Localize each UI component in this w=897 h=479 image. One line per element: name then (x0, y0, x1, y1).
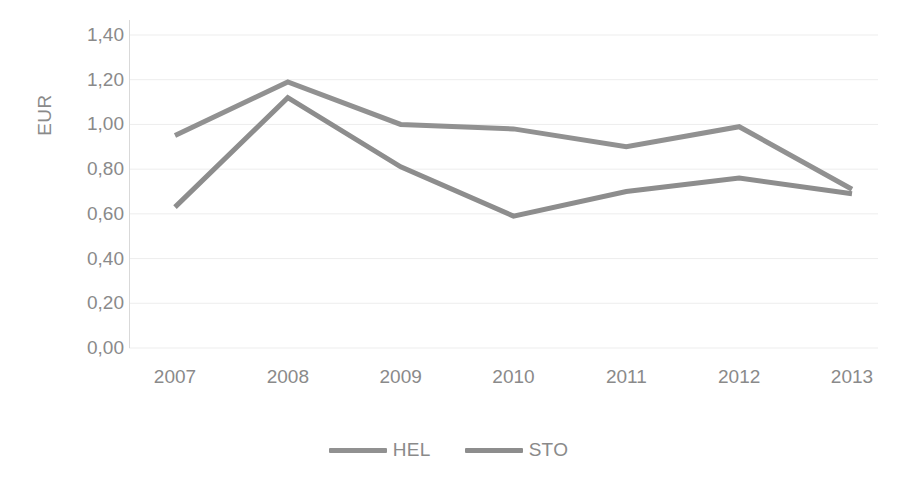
series-line-hel (175, 82, 852, 189)
y-tick-label: 0,60 (87, 203, 124, 225)
plot-area (129, 20, 878, 360)
legend-entry-hel[interactable]: HEL (329, 439, 431, 461)
x-tick-label: 2012 (718, 366, 760, 388)
gridlines (129, 35, 878, 348)
legend-line-swatch-icon (329, 448, 387, 453)
y-tick-label: 0,40 (87, 248, 124, 270)
legend-entry-sto[interactable]: STO (465, 439, 569, 461)
y-tick-label: 1,40 (87, 24, 124, 46)
legend-line-swatch-icon (465, 448, 523, 453)
plot-svg (129, 20, 878, 360)
series-line-sto (175, 98, 852, 217)
x-tick-label: 2013 (831, 366, 873, 388)
chart-legend: HELSTO (0, 432, 897, 468)
y-tick-label: 1,00 (87, 113, 124, 135)
y-axis-tick-labels: 0,000,200,400,600,801,001,201,40 (68, 0, 124, 479)
data-series-lines (175, 82, 852, 216)
legend-label: HEL (393, 439, 431, 461)
x-tick-label: 2008 (267, 366, 309, 388)
x-tick-label: 2011 (606, 366, 647, 388)
x-axis-tick-labels: 2007200820092010201120122013 (129, 366, 878, 400)
y-tick-label: 1,20 (87, 69, 124, 91)
line-chart: EUR 0,000,200,400,600,801,001,201,40 200… (0, 0, 897, 479)
x-tick-label: 2009 (380, 366, 422, 388)
y-tick-label: 0,20 (87, 292, 124, 314)
legend-label: STO (529, 439, 569, 461)
x-tick-label: 2007 (154, 366, 196, 388)
y-axis-title: EUR (30, 60, 60, 170)
y-tick-label: 0,80 (87, 158, 124, 180)
x-tick-label: 2010 (492, 366, 534, 388)
y-tick-label: 0,00 (87, 337, 124, 359)
